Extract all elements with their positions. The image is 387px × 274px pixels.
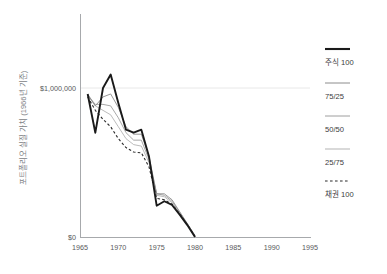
legend-item-25-75[interactable]: 25/75 <box>325 149 350 167</box>
x-tick-label-1970: 1970 <box>110 243 126 252</box>
legend-item-50-50[interactable]: 50/50 <box>325 116 350 134</box>
x-tick-label-1995: 1995 <box>302 243 318 252</box>
x-tick-label-1975: 1975 <box>149 243 165 252</box>
legend-item-bonds-100[interactable]: 채권 100 <box>325 181 354 199</box>
x-tick-label-1990: 1990 <box>264 243 280 252</box>
legend-item-stocks-100[interactable]: 주식 100 <box>325 49 354 67</box>
legend-label-75-25: 75/25 <box>325 92 344 101</box>
series-layer <box>88 75 195 237</box>
legend: 주식 100 75/25 50/50 25/75 채권 100 <box>325 49 354 199</box>
y-tick-label-1000000: $1,000,000 <box>40 84 76 93</box>
x-tick-label-1985: 1985 <box>225 243 241 252</box>
y-tick-label-0: $0 <box>68 233 76 242</box>
legend-item-75-25[interactable]: 75/25 <box>325 83 350 101</box>
line-chart-svg: $1,000,000 $0 포트폴리오 실질 가치 (1966년 기준) 196… <box>0 0 387 274</box>
legend-label-25-75: 25/75 <box>325 158 344 167</box>
y-axis-title: 포트폴리오 실질 가치 (1966년 기준) <box>18 70 28 185</box>
series-line-bonds-100 <box>88 97 195 237</box>
legend-label-bonds-100: 채권 100 <box>325 189 354 199</box>
series-line-stocks-100 <box>88 75 195 237</box>
x-tick-label-1965: 1965 <box>72 243 88 252</box>
legend-label-stocks-100: 주식 100 <box>325 58 354 67</box>
legend-label-50-50: 50/50 <box>325 125 344 134</box>
chart-container: $1,000,000 $0 포트폴리오 실질 가치 (1966년 기준) 196… <box>0 0 387 274</box>
x-tick-label-1980: 1980 <box>187 243 203 252</box>
